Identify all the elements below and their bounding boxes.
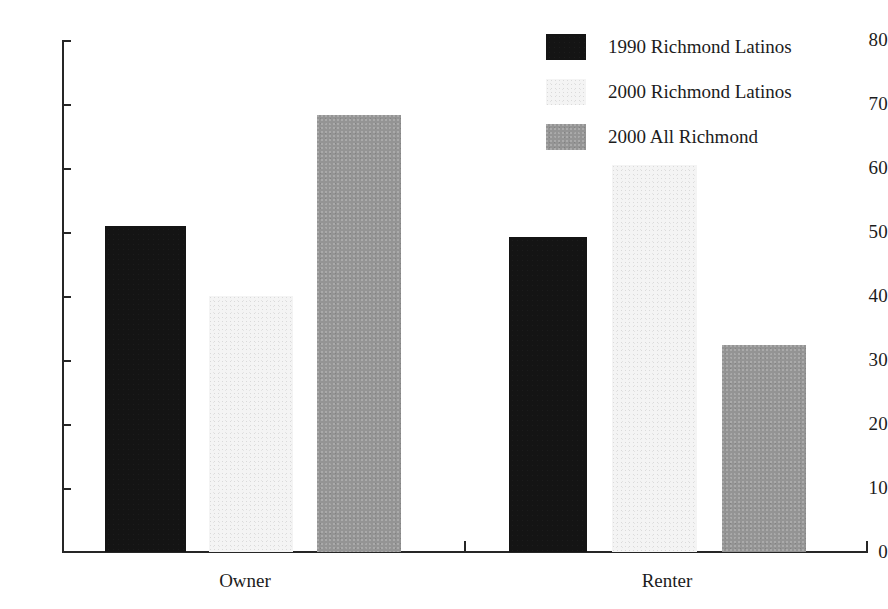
y-tick-60 (62, 168, 71, 170)
y-tick-label-40: 40 (850, 286, 888, 305)
bar-owner-2000-all-richmond (317, 115, 401, 552)
y-tick-20 (62, 424, 71, 426)
y-tick-50 (62, 232, 71, 234)
legend-label-1990-richmond-latinos: 1990 Richmond Latinos (608, 36, 792, 58)
legend-item-2000-richmond-latinos: 2000 Richmond Latinos (546, 69, 866, 114)
legend-swatch-icon-light (546, 79, 586, 105)
y-tick-label-50: 50 (850, 222, 888, 241)
y-tick-40 (62, 296, 71, 298)
x-category-label-owner: Owner (190, 570, 300, 592)
bar-renter-2000-all-richmond (722, 345, 806, 552)
bar-owner-1990-richmond-latinos (105, 226, 186, 552)
legend-item-2000-all-richmond: 2000 All Richmond (546, 114, 866, 159)
bar-chart-figure: 80 70 60 50 40 30 20 10 0 Owner Renter 1… (0, 0, 888, 609)
y-tick-label-30: 30 (850, 350, 888, 369)
y-tick-label-10: 10 (850, 478, 888, 497)
bar-renter-2000-richmond-latinos (612, 165, 697, 552)
legend-swatch-icon-gray (546, 124, 586, 150)
chart-legend: 1990 Richmond Latinos 2000 Richmond Lati… (546, 24, 866, 159)
bar-owner-2000-richmond-latinos (209, 296, 293, 552)
legend-label-2000-all-richmond: 2000 All Richmond (608, 126, 758, 148)
y-tick-80 (62, 40, 71, 42)
bar-renter-1990-richmond-latinos (509, 237, 587, 553)
y-tick-10 (62, 488, 71, 490)
y-tick-70 (62, 104, 71, 106)
legend-swatch-icon-dark (546, 34, 586, 60)
x-tick-axis-end (866, 541, 868, 552)
y-tick-label-20: 20 (850, 414, 888, 433)
legend-label-2000-richmond-latinos: 2000 Richmond Latinos (608, 81, 792, 103)
x-category-label-renter: Renter (612, 570, 722, 592)
legend-item-1990-richmond-latinos: 1990 Richmond Latinos (546, 24, 866, 69)
y-tick-label-60: 60 (850, 158, 888, 177)
y-tick-30 (62, 360, 71, 362)
x-tick-group-separator (464, 541, 466, 552)
